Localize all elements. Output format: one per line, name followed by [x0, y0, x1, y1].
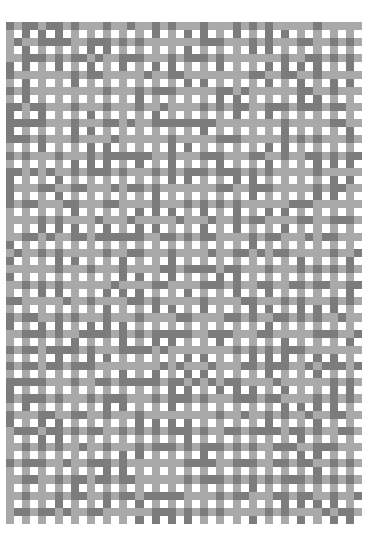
woven-pattern — [6, 22, 362, 524]
weave-cell — [354, 516, 362, 524]
